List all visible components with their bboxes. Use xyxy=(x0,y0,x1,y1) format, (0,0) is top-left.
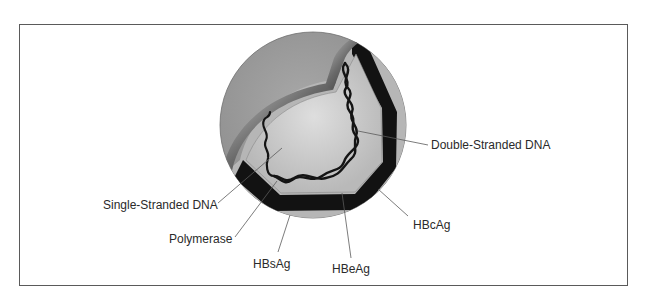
label-hbeag: HBeAg xyxy=(332,262,370,276)
label-single-stranded-dna: Single-Stranded DNA xyxy=(103,198,218,212)
leader-hbsag xyxy=(278,215,290,252)
hbv-virion-diagram xyxy=(0,0,648,299)
leader-hbcag xyxy=(378,189,408,216)
label-polymerase: Polymerase xyxy=(169,232,232,246)
label-hbsag: HBsAg xyxy=(253,257,290,271)
label-double-stranded-dna: Double-Stranded DNA xyxy=(431,138,550,152)
label-hbcag: HBcAg xyxy=(413,218,450,232)
